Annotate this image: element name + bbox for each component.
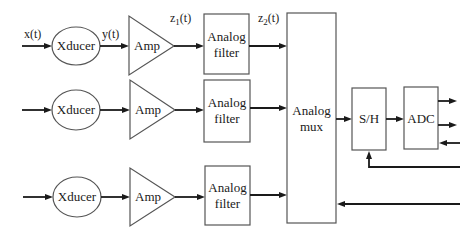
transducer-output-signal-label: y(t) [102, 27, 119, 41]
analog-filter-3-label-line1: Analog [208, 180, 247, 195]
channel-2: Xducer Amp Analog filter [22, 80, 287, 142]
analog-filter-3-label-line2: filter [215, 196, 241, 211]
input-signal-label: x(t) [24, 27, 41, 41]
arrowhead [121, 43, 129, 49]
analog-filter-1-label-line1: Analog [207, 29, 246, 44]
filter-output-signal-label: z2(t) [258, 11, 279, 27]
arrowhead [337, 201, 345, 207]
amplifier-2-label: Amp [135, 102, 161, 117]
arrowhead [44, 43, 52, 49]
arrowhead [122, 107, 130, 113]
adc: ADC [404, 87, 460, 149]
analog-filter-2-label-line1: Analog [208, 95, 247, 110]
arrowhead [449, 122, 457, 128]
analog-filter-1 [204, 14, 249, 74]
amplifier-3-label: Amp [135, 189, 161, 204]
arrowhead [45, 194, 53, 200]
arrowhead [279, 192, 287, 198]
arrowhead [344, 116, 352, 122]
arrowhead [279, 43, 287, 49]
analog-mux-block [287, 13, 336, 223]
transducer-1-label: Xducer [57, 38, 96, 53]
arrowhead [396, 116, 404, 122]
sh-control-wire [369, 156, 460, 167]
arrowhead [196, 43, 204, 49]
analog-filter-2-label-line2: filter [214, 111, 240, 126]
channel-1: x(t) Xducer y(t) Amp z1(t) Analog filter… [22, 11, 287, 75]
analog-mux-label-line1: Analog [292, 103, 331, 118]
arrowhead [196, 107, 204, 113]
arrowhead [44, 107, 52, 113]
arrowhead [197, 194, 205, 200]
arrowhead [449, 98, 457, 104]
arrowhead [366, 151, 372, 159]
amplifier-1-label: Amp [134, 38, 160, 53]
amp-output-signal-label: z1(t) [170, 11, 191, 27]
channel-3: Xducer Amp Analog filter [23, 166, 287, 226]
analog-mux-label-line2: mux [300, 119, 324, 134]
analog-filter-1-label-line2: filter [214, 45, 240, 60]
transducer-2-label: Xducer [57, 102, 96, 117]
arrowhead [122, 194, 130, 200]
arrowhead [279, 105, 287, 111]
sample-hold-label: S/H [359, 111, 379, 126]
data-acquisition-block-diagram: x(t) Xducer y(t) Amp z1(t) Analog filter… [0, 0, 475, 239]
transducer-3-label: Xducer [58, 189, 97, 204]
adc-label: ADC [407, 111, 434, 126]
arrowhead [439, 140, 447, 146]
